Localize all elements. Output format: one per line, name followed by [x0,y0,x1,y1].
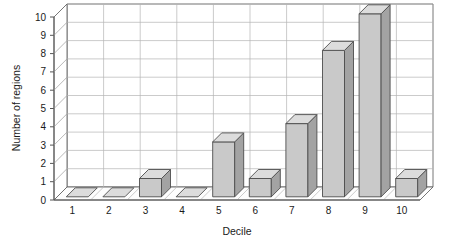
x-tick-label-7: 7 [289,205,295,216]
y-tick-label-9: 9 [40,30,46,41]
bar-decile-3 [140,170,171,197]
bar-side [381,5,390,197]
x-tick-label-2: 2 [106,205,112,216]
bar-front [323,50,345,196]
bar-chart-figure: 0 1 2 3 4 5 6 7 8 9 10 [0,0,453,243]
bar-front [213,142,235,197]
y-tick-label-1: 1 [40,176,46,187]
bar-front [286,124,308,197]
bar-decile-7 [286,115,317,197]
x-tick-label-6: 6 [253,205,259,216]
y-tick-label-4: 4 [40,121,46,132]
bar-decile-5 [213,133,244,197]
x-tick-label-8: 8 [326,205,332,216]
y-tick-label-6: 6 [40,85,46,96]
x-tick-label-1: 1 [70,205,76,216]
bar-decile-9 [359,5,390,197]
y-tick-label-7: 7 [40,66,46,77]
y-tick-label-2: 2 [40,158,46,169]
bar-front [140,179,162,197]
y-tick-label-0: 0 [40,195,46,206]
y-axis-title: Number of regions [10,65,22,151]
y-tick-label-5: 5 [40,103,46,114]
x-tick-label-9: 9 [362,205,368,216]
bar-side [345,41,354,196]
y-axis-ticks [50,17,54,200]
chart-canvas: 0 1 2 3 4 5 6 7 8 9 10 [0,0,453,243]
x-tick-label-5: 5 [216,205,222,216]
x-tick-label-3: 3 [143,205,149,216]
y-tick-label-3: 3 [40,140,46,151]
y-tick-label-8: 8 [40,48,46,59]
bar-front [249,179,271,197]
x-tick-label-4: 4 [179,205,185,216]
bar-decile-10 [396,170,427,197]
x-tick-label-10: 10 [396,205,408,216]
bar-side [235,133,244,197]
bar-front [359,14,381,197]
bar-decile-6 [249,170,280,197]
y-tick-label-10: 10 [35,12,47,23]
bar-front [396,179,418,197]
x-axis-title: Decile [222,225,251,237]
bar-decile-8 [323,41,354,196]
bar-side [308,115,317,197]
